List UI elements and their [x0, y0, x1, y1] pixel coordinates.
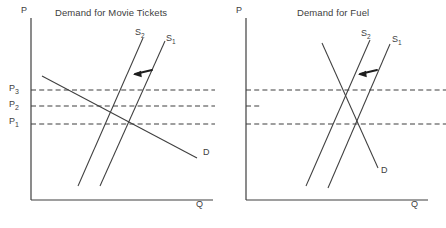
y-axis-label-right: P: [236, 5, 242, 15]
y-axis-label-left: P: [21, 5, 27, 15]
demand-curve-left: [42, 76, 197, 158]
curve-label-d-left: D: [203, 147, 210, 157]
curve-label-s2-left: S2: [135, 27, 145, 39]
panel-title-fuel: Demand for Fuel: [297, 7, 369, 18]
curve-label-s1-left: S1: [166, 33, 176, 45]
price-label-p3: P3: [9, 83, 19, 95]
x-axis-label-left: Q: [196, 199, 203, 209]
curve-label-d-right: D: [381, 165, 388, 175]
panel-movie-tickets-axes: [31, 18, 213, 200]
x-axis-label-right: Q: [411, 199, 418, 209]
price-label-p2: P2: [9, 99, 19, 111]
curve-label-s2-right: S2: [361, 28, 371, 40]
price-label-p1: P1: [9, 116, 19, 128]
curve-label-s1-right: S1: [392, 34, 402, 46]
demand-curve-right: [322, 43, 378, 168]
figure-canvas: Demand for Movie Tickets P Q S2 S1 D P3 …: [0, 0, 446, 228]
shift-arrow-right-panel: [358, 70, 377, 77]
supply-demand-diagram: [0, 0, 446, 228]
panel-title-movie-tickets: Demand for Movie Tickets: [55, 7, 167, 18]
